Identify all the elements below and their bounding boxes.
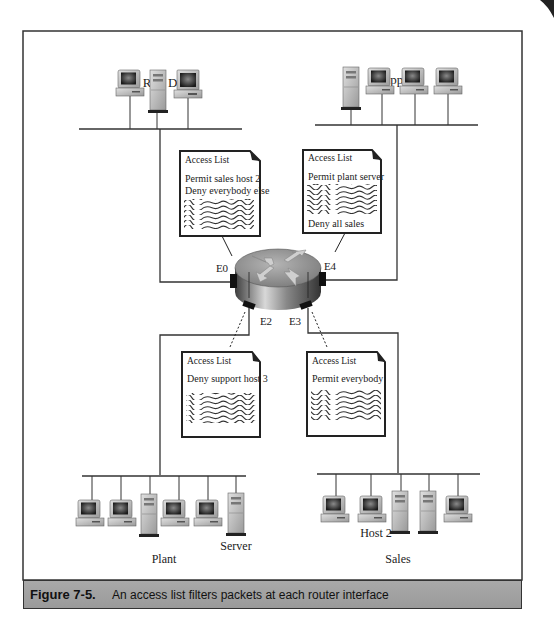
figure-caption: Figure 7-5. An access list filters packe… — [23, 580, 522, 609]
workstation-icon — [194, 500, 222, 526]
svg-text:Access List: Access List — [187, 356, 231, 366]
server-tower-icon — [226, 493, 246, 536]
workstation-icon — [358, 496, 386, 522]
svg-text:Access List: Access List — [185, 155, 229, 165]
server-tower-icon — [390, 491, 410, 534]
server-label: Server — [220, 539, 251, 553]
workstation-icon — [174, 70, 202, 98]
interface-label-e3: E3 — [289, 315, 302, 327]
port-e0 — [230, 274, 237, 288]
access-list-e3: Access List Permit everybody — [307, 352, 385, 436]
interface-label-e2: E2 — [260, 315, 272, 327]
router-icon — [230, 249, 326, 310]
svg-text:Permit everybody: Permit everybody — [312, 373, 383, 384]
svg-text:Deny support host 3: Deny support host 3 — [187, 373, 268, 384]
workstation-icon — [161, 500, 189, 526]
svg-text:Deny all sales: Deny all sales — [308, 218, 364, 229]
network-diagram: R & D Support Access List Permit sales h… — [0, 0, 554, 642]
figure-number: Figure 7-5. — [30, 587, 102, 602]
figure-caption-text: An access list filters packets at each r… — [112, 588, 389, 602]
svg-text:Deny everybody else: Deny everybody else — [185, 185, 270, 196]
segment-label-sales: Sales — [385, 552, 411, 566]
workstation-icon — [76, 500, 104, 526]
page-corner-mark — [540, 0, 554, 18]
workstation-icon — [444, 496, 472, 522]
port-e4 — [319, 272, 326, 286]
workstation-icon — [366, 68, 394, 94]
workstation-icon — [116, 70, 144, 96]
svg-text:Permit plant server: Permit plant server — [308, 171, 385, 182]
access-list-e2: Access List Deny support host 3 — [182, 352, 268, 437]
interface-label-e0: E0 — [216, 262, 229, 274]
segment-label-plant: Plant — [152, 552, 177, 566]
workstation-icon — [108, 500, 136, 526]
svg-text:Access List: Access List — [312, 356, 356, 366]
workstation-icon — [321, 496, 349, 522]
server-tower-icon — [139, 494, 159, 537]
interface-label-e4: E4 — [324, 260, 337, 272]
workstation-icon — [434, 68, 462, 94]
workstation-icon — [400, 68, 428, 94]
server-tower-icon — [418, 491, 438, 534]
host-2-label: Host 2 — [360, 526, 392, 540]
svg-text:Access List: Access List — [308, 153, 352, 163]
server-tower-icon — [148, 70, 168, 113]
server-tower-icon — [341, 67, 361, 110]
svg-text:Permit sales host 2: Permit sales host 2 — [185, 173, 260, 184]
